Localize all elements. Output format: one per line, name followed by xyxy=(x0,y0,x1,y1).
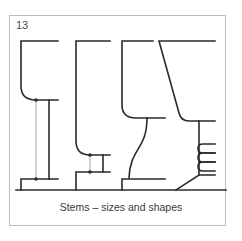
stem-shape-1 xyxy=(21,41,58,190)
stem-shape-2 xyxy=(76,41,110,190)
figure-caption: Stems – sizes and shapes xyxy=(0,201,242,213)
stem-shape-4 xyxy=(159,41,215,190)
stem-shape-3 xyxy=(122,41,165,190)
